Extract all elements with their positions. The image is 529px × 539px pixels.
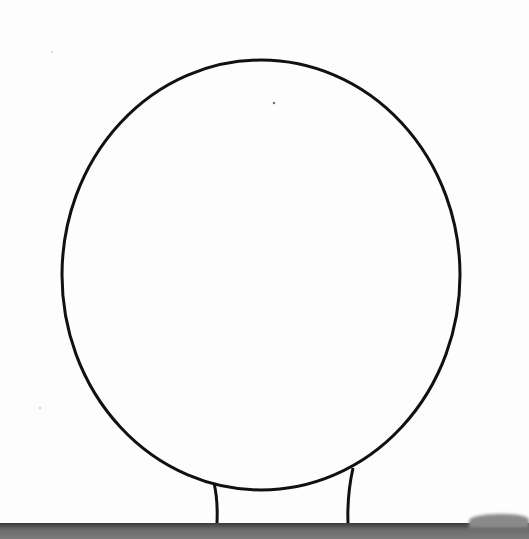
neck-right-line (348, 468, 353, 523)
head-outline-drawing (0, 0, 529, 539)
head-outline (62, 60, 460, 490)
ground-smudge (469, 514, 529, 528)
stray-dot (51, 51, 53, 53)
stray-dot (39, 407, 41, 409)
stray-dot (273, 102, 276, 105)
ground-bar (0, 523, 529, 539)
neck-left-line (214, 483, 217, 523)
